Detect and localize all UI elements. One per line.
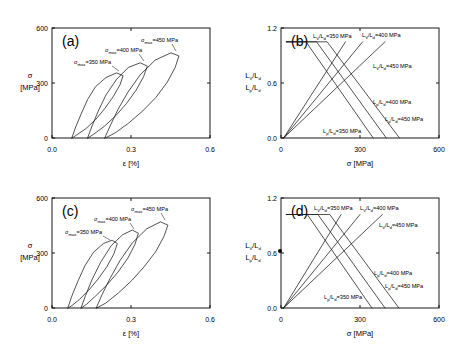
panel-c-loop-450 (96, 222, 168, 308)
panel-d-label-Lv-350-suffix: =350 MPa (327, 205, 354, 211)
panel-a-label-400-suffix: =400 MPa (116, 47, 143, 53)
panel-c-xlabel: ε [%] (123, 329, 139, 338)
panel-a-loop-350 (72, 73, 123, 138)
panel-d-label-Lp-450-suffix: =450 MPa (398, 283, 425, 289)
panel-b-line-Lv-450 (286, 42, 399, 138)
panel-a-label-350-suffix: =350 MPa (85, 59, 112, 65)
panel-c-label-350-suffix: =350 MPa (76, 229, 103, 235)
figure-canvas: σ [MPa] 600 300 0 0.0 0.3 0.6 ε [%] (0, 0, 454, 347)
panel-d-ytick-00: 0.0 (267, 305, 277, 312)
panel-c-plot: σ [MPa] 600 300 0 0.0 0.3 0.6 ε [%] (c) (0, 178, 227, 344)
panel-c: σ [MPa] 600 300 0 0.0 0.3 0.6 ε [%] (c) (0, 178, 227, 344)
panel-b-letter: (b) (291, 33, 308, 49)
panel-b-ytick-12: 1.2 (267, 25, 277, 32)
panel-c-xtick-03: 0.3 (126, 316, 136, 323)
panel-a-label-450-suffix: =450 MPa (152, 37, 179, 43)
panel-d-letter: (d) (291, 203, 308, 219)
panel-a-xtick-0: 0.0 (47, 146, 57, 153)
panel-a-leader-400 (139, 54, 144, 61)
panel-b-xtick-300: 300 (354, 146, 366, 153)
panel-c-label-450-suffix: =450 MPa (142, 206, 169, 212)
panel-a-ylabel-line1: σ (28, 71, 33, 80)
panel-c-leader-400 (130, 223, 134, 229)
panel-d-xtick-600: 600 (433, 316, 445, 323)
panel-b-xtick-0: 0 (279, 146, 283, 153)
panel-c-leader-350 (103, 236, 110, 240)
panel-d-label-Lp-350-suffix: =350 MPa (337, 294, 364, 300)
panel-b-label-Lp-450-suffix: =450 MPa (398, 116, 425, 122)
panel-d: LV/Ld Lp/Ld 1.2 0.6 0.0 0 300 600 σ [MPa… (227, 178, 454, 344)
panel-c-xtick-06: 0.6 (205, 316, 215, 323)
panel-c-annotations: σmax=350 MPa σmax=400 MPa σmax=450 MPa (65, 206, 169, 240)
panel-b-label-Lp-350-suffix: =350 MPa (336, 128, 363, 134)
panel-d-ylabel-1-den-sub: d (258, 246, 261, 251)
panel-a: σ [MPa] 600 300 0 0.0 0.3 0.6 ε [%] (0, 8, 227, 174)
panel-a-xtick-06: 0.6 (205, 146, 215, 153)
panel-b-label-Lv-400-suffix: =400 MPa (375, 32, 402, 38)
panel-a-letter: (a) (62, 33, 79, 49)
panel-b-ytick-00: 0.0 (267, 135, 277, 142)
panel-a-leader-350 (112, 66, 119, 71)
panel-a-annotations: σmax=350 MPa σmax=400 MPa σmax=450 MPa (74, 37, 179, 71)
panel-b-label-Lp-450: Lp/Ld=450 MPa (385, 116, 424, 124)
panel-b-label-Lv-350: LV/Ld=350 MPa (313, 33, 352, 41)
panel-b-plot: LV/Ld Lp/Ld 1.2 0.6 0.0 0 300 600 σ [MPa… (227, 8, 454, 174)
svg-text:Lp/Ld: Lp/Ld (245, 83, 261, 93)
panel-c-ytick-300: 300 (36, 250, 48, 257)
panel-a-xtick-03: 0.3 (126, 146, 136, 153)
panel-c-ytick-0: 0 (44, 305, 48, 312)
panel-c-ytick-600: 600 (36, 195, 48, 202)
panel-b-label-Lv-350-suffix: =350 MPa (326, 33, 353, 39)
panel-d-annotations: LV/Ld=350 MPa LV/Ld=400 MPa LV/Ld=450 MP… (314, 205, 424, 302)
panel-b-label-Lp-400: Lp/Ld=400 MPa (373, 99, 412, 107)
panel-c-letter: (c) (62, 203, 78, 219)
panel-d-label-Lp-400-suffix: =400 MPa (387, 270, 414, 276)
panel-b-line-Lp-450 (284, 42, 385, 138)
panel-d-label-Lp-400: Lp/Ld=400 MPa (374, 270, 413, 278)
panel-b-ytick-06: 0.6 (267, 80, 277, 87)
panel-a-label-400: σmax=400 MPa (105, 47, 143, 55)
panel-a-ytick-300: 300 (36, 80, 48, 87)
panel-c-label-400-suffix: =400 MPa (105, 216, 132, 222)
panel-a-label-350: σmax=350 MPa (74, 59, 112, 67)
panel-a-ytick-0: 0 (44, 135, 48, 142)
panel-c-ylabel-line1: σ (28, 241, 33, 250)
panel-d-label-Lv-400: LV/Ld=400 MPa (360, 205, 399, 213)
panel-d-xlabel: σ [MPa] (347, 329, 373, 338)
panel-b-label-Lv-450-suffix: =450 MPa (386, 63, 413, 69)
panel-d-label-Lp-350: Lp/Ld=350 MPa (324, 294, 363, 302)
panel-d-ytick-12: 1.2 (267, 195, 277, 202)
panel-b-curves (284, 42, 400, 138)
panel-b-xtick-600: 600 (433, 146, 445, 153)
panel-d-label-Lv-350: LV/Ld=350 MPa (314, 205, 353, 213)
panel-b-line-Lp-350 (284, 42, 346, 138)
panel-d-label-Lv-400-suffix: =400 MPa (373, 205, 400, 211)
panel-b-annotations: LV/Ld=350 MPa LV/Ld=400 MPa LV/Ld=450 MP… (313, 32, 424, 136)
svg-text:LV/Ld: LV/Ld (245, 71, 261, 81)
panel-d-ylabel: LV/Ld Lp/Ld (245, 241, 261, 263)
panel-c-xtick-0: 0.0 (47, 316, 57, 323)
panel-d-label-Lv-450: LV/Ld=450 MPa (379, 222, 418, 230)
panel-d-ytick-06: 0.6 (267, 250, 277, 257)
panel-d-label-Lv-450-suffix: =450 MPa (392, 222, 419, 228)
panel-a-leader-450 (172, 44, 176, 51)
panel-c-label-400: σmax=400 MPa (94, 216, 132, 224)
panel-c-loop-350 (68, 240, 118, 308)
panel-d-plot: LV/Ld Lp/Ld 1.2 0.6 0.0 0 300 600 σ [MPa… (227, 178, 454, 344)
panel-a-curves (72, 53, 179, 138)
panel-b-label-Lv-400: LV/Ld=400 MPa (362, 32, 401, 40)
panel-b-ylabel-2-den-sub: d (258, 88, 261, 93)
svg-text:LV/Ld: LV/Ld (245, 241, 261, 251)
panel-b-line-Lp-400 (284, 42, 363, 138)
panel-d-xtick-300: 300 (354, 316, 366, 323)
panel-b-ylabel: LV/Ld Lp/Ld (245, 71, 261, 93)
panel-b-label-Lv-450: LV/Ld=450 MPa (373, 63, 412, 71)
panel-d-xtick-0: 0 (279, 316, 283, 323)
panel-b-label-Lp-400-suffix: =400 MPa (386, 99, 413, 105)
panel-b: LV/Ld Lp/Ld 1.2 0.6 0.0 0 300 600 σ [MPa… (227, 8, 454, 174)
panel-a-loop-450 (105, 53, 179, 138)
panel-c-leader-450 (161, 213, 165, 220)
panel-b-xlabel: σ [MPa] (347, 159, 373, 168)
panel-c-label-350: σmax=350 MPa (65, 229, 103, 237)
panel-b-ylabel-1-den-sub: d (258, 76, 261, 81)
